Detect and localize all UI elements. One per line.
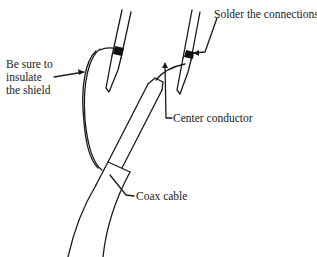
shield-arrowhead [78, 69, 84, 75]
left-iron-tip [106, 56, 121, 92]
shield-note-line2: insulate [6, 71, 42, 84]
coax-cable-label: Coax cable [136, 190, 187, 203]
dielectric-right-edge [122, 90, 162, 168]
right-iron-tip [177, 58, 191, 94]
coax-note-leader [110, 175, 134, 196]
center-conductor-label: Center conductor [173, 112, 253, 125]
left-solder-blob [113, 46, 124, 56]
coax-soldering-diagram: Be sure to insulate the shield Solder th… [0, 0, 317, 257]
shield-note-line3: the shield [6, 84, 50, 97]
solder-label: Solder the connections [214, 8, 317, 21]
coax-jacket-left-edge [68, 185, 96, 257]
center-note-leader [165, 64, 172, 118]
shield-note-line1: Be sure to [6, 58, 53, 71]
coax-jacket-right-edge [103, 172, 130, 257]
diagram-drawing [0, 0, 317, 257]
center-arrowhead [162, 62, 168, 68]
solder-arrowhead [193, 50, 199, 56]
dielectric-left-edge [108, 84, 148, 162]
